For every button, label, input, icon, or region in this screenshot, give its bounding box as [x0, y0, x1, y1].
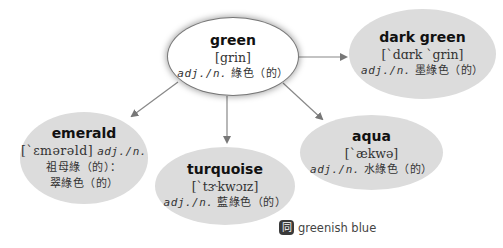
- node-emerald: emerald [`ɛmərəld] adj./n. 祖母綠（的）： 翠綠色（的…: [20, 112, 148, 204]
- turquoise-word: turquoise: [187, 161, 263, 178]
- emerald-meaning-1: 祖母綠（的）：: [46, 160, 122, 176]
- turquoise-ipa: [`tɝkwɔɪz]: [192, 178, 259, 195]
- main-meaning: 綠色（的）: [231, 67, 289, 80]
- node-turquoise: turquoise [`tɝkwɔɪz] adj./n. 藍綠色（的）: [155, 147, 295, 225]
- emerald-word: emerald: [52, 125, 117, 142]
- aqua-ipa: [`ækwə]: [345, 145, 398, 162]
- dark-green-pos: adj./n.: [361, 64, 411, 77]
- main-node-green: green [grin] adj./n. 綠色（的）: [168, 18, 298, 95]
- dark-green-definition: adj./n. 墨綠色（的）: [361, 63, 484, 79]
- synonym-text: greenish blue: [298, 221, 376, 235]
- main-ipa: [grin]: [215, 49, 251, 66]
- aqua-definition: adj./n. 水綠色（的）: [310, 162, 433, 178]
- node-aqua: aqua [`ækwə] adj./n. 水綠色（的）: [300, 115, 443, 190]
- arrow-to-emerald: [132, 82, 178, 116]
- main-word: green: [210, 32, 256, 49]
- emerald-ipa-line: [`ɛmərəld] adj./n.: [21, 142, 147, 160]
- turquoise-pos: adj./n.: [164, 196, 214, 209]
- emerald-pos: adj./n.: [97, 145, 147, 158]
- synonym-note: 同 greenish blue: [279, 220, 376, 235]
- emerald-ipa: [`ɛmərəld]: [21, 143, 93, 158]
- dark-green-word: dark green: [379, 29, 465, 46]
- dark-green-meaning: 墨綠色（的）: [415, 64, 484, 77]
- aqua-meaning: 水綠色（的）: [364, 163, 433, 176]
- emerald-meaning-2: 翠綠色（的）: [50, 176, 119, 192]
- node-dark-green: dark green [`dɑrk `grin] adj./n. 墨綠色（的）: [349, 9, 496, 99]
- synonym-icon: 同: [279, 220, 294, 235]
- aqua-pos: adj./n.: [310, 163, 360, 176]
- aqua-word: aqua: [352, 128, 391, 145]
- turquoise-definition: adj./n. 藍綠色（的）: [164, 195, 287, 211]
- dark-green-ipa: [`dɑrk `grin]: [382, 46, 464, 63]
- arrow-to-aqua: [283, 83, 322, 119]
- main-pos: adj./n.: [177, 67, 227, 80]
- turquoise-meaning: 藍綠色（的）: [217, 196, 286, 209]
- main-definition: adj./n. 綠色（的）: [177, 66, 288, 82]
